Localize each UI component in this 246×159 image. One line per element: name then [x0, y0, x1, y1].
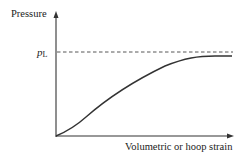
pressure-strain-diagram — [0, 0, 246, 159]
limit-pressure-label: pL — [37, 47, 47, 59]
y-axis-label: Pressure — [11, 9, 47, 20]
y-axis-arrow-icon — [54, 11, 59, 18]
pressure-strain-curve — [56, 56, 232, 136]
limit-pressure-subscript: L — [43, 50, 48, 59]
x-axis-label: Volumetric or hoop strain — [125, 142, 232, 153]
x-axis-arrow-icon — [227, 134, 234, 139]
